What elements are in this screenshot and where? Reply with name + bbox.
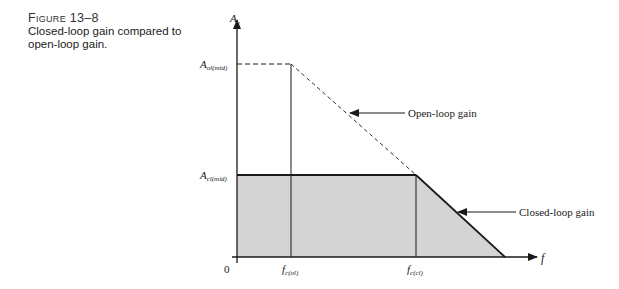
open-loop-callout-label: Open-loop gain — [408, 107, 477, 119]
x-axis-label: f — [541, 251, 546, 265]
fc-ol-label: fc(ol) — [282, 263, 299, 277]
closed-loop-callout-label: Closed-loop gain — [519, 206, 595, 218]
closed-loop-shaded-area — [237, 175, 505, 257]
y-axis-label: Av — [229, 12, 241, 27]
fc-cl-label: fc(cl) — [407, 263, 424, 277]
origin-label: 0 — [224, 263, 230, 275]
a-cl-mid-label: Acl(mid) — [199, 169, 228, 183]
gain-diagram: Open-loop gain Closed-loop gain Av f 0 A… — [0, 0, 619, 289]
open-loop-rolloff-dashed — [291, 64, 416, 175]
a-ol-mid-label: Aol(mid) — [199, 58, 228, 72]
